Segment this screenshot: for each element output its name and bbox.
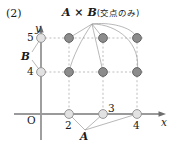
product-set-title-note: (交点のみ) xyxy=(97,8,140,18)
x-tick-label-2: 2 xyxy=(65,120,72,131)
product-point-3-4 xyxy=(99,68,108,77)
product-set-lattice-diagram xyxy=(0,0,172,147)
y-tick-label-4: 4 xyxy=(27,66,34,77)
problem-number-label: (2) xyxy=(6,8,22,19)
product-set-title-main: A × B xyxy=(62,6,97,19)
set-a-point-4 xyxy=(133,110,142,119)
set-a-point-2 xyxy=(65,110,74,119)
x-axis-label: x xyxy=(161,117,167,128)
y-axis-label: y xyxy=(35,23,41,34)
product-set-title: A × B(交点のみ) xyxy=(62,7,139,18)
set-a-label: A xyxy=(80,131,88,142)
set-b-point-4 xyxy=(37,68,46,77)
horizontal-guide-lines xyxy=(41,38,143,72)
set-b-label: B xyxy=(21,51,30,62)
x-tick-label-3: 3 xyxy=(108,103,115,114)
y-tick-label-5: 5 xyxy=(27,32,34,43)
product-point-4-4 xyxy=(133,68,142,77)
origin-label: O xyxy=(27,115,36,126)
product-point-2-4 xyxy=(65,68,74,77)
product-point-3-5 xyxy=(99,34,108,43)
product-point-2-5 xyxy=(65,34,74,43)
x-tick-label-4: 4 xyxy=(133,120,140,131)
set-a-point-3 xyxy=(99,110,108,119)
product-point-4-5 xyxy=(133,34,142,43)
set-b-point-5 xyxy=(37,34,46,43)
connector-a-to-x4 xyxy=(85,114,137,130)
